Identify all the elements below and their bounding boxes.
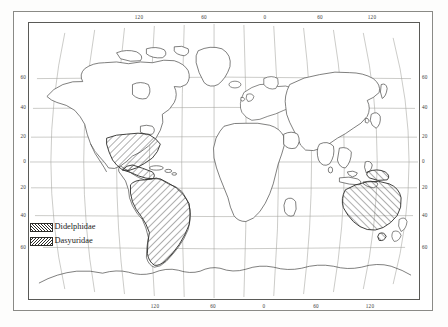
- landmass-iceland: [229, 81, 241, 88]
- tick-right-1: 40: [422, 105, 428, 110]
- legend-item-didelphidae: Didelphidae: [30, 221, 138, 234]
- map-graphic: [29, 23, 419, 299]
- legend-label-dasyuridae: Dasyuridae: [55, 237, 93, 245]
- tick-top-2: 0: [264, 15, 267, 20]
- tick-left-5: 40: [14, 213, 26, 218]
- tick-left-6: 60: [14, 245, 26, 250]
- landmass-antarctica: [39, 264, 411, 283]
- legend-label-didelphidae: Didelphidae: [55, 223, 96, 231]
- tick-bottom-1: 60: [210, 304, 216, 309]
- tick-right-2: 20: [422, 134, 428, 139]
- tick-right-3: 0: [422, 159, 425, 164]
- tick-left-0: 60: [14, 75, 26, 80]
- tick-bottom-3: 60: [313, 304, 319, 309]
- tick-left-2: 20: [14, 134, 26, 139]
- landmass-greenland: [196, 47, 230, 86]
- tick-left-3: 0: [14, 159, 26, 164]
- tick-right-4: 20: [422, 185, 428, 190]
- tick-bottom-2: 0: [263, 304, 266, 309]
- tick-top-4: 120: [368, 15, 376, 20]
- landmass-new-zealand: [392, 218, 407, 241]
- tick-bottom-0: 120: [151, 304, 159, 309]
- tick-top-1: 60: [201, 15, 207, 20]
- tick-right-0: 60: [422, 75, 428, 80]
- legend-swatch-didelphidae: [30, 223, 53, 232]
- tick-bottom-4: 120: [366, 304, 374, 309]
- tick-left-4: 20: [14, 185, 26, 190]
- legend-item-dasyuridae: Dasyuridae: [30, 235, 138, 248]
- legend: Didelphidae Dasyuridae: [30, 221, 138, 249]
- world-map: [28, 22, 420, 300]
- tick-top-0: 120: [135, 15, 143, 20]
- tick-right-5: 40: [422, 213, 428, 218]
- tick-left-1: 40: [14, 105, 26, 110]
- tick-top-3: 60: [317, 15, 323, 20]
- tick-right-6: 60: [422, 245, 428, 250]
- map-page: 120 60 0 60 120 120 60 0 60 120 60 40 20…: [0, 0, 448, 327]
- legend-swatch-dasyuridae: [30, 237, 53, 246]
